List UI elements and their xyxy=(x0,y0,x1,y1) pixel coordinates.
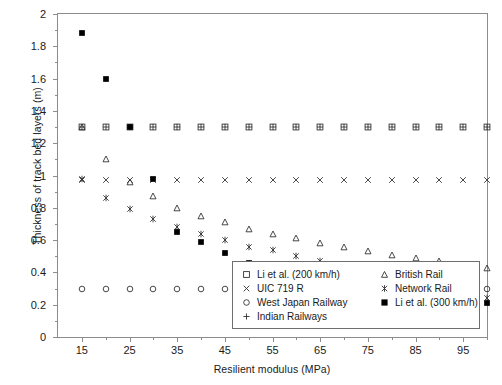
data-point xyxy=(78,285,85,292)
data-point xyxy=(293,177,300,184)
y-axis-tick-label: 1.4 xyxy=(31,105,46,117)
legend-item: Li et al. (300 km/h) xyxy=(379,295,483,309)
data-point xyxy=(484,264,491,271)
data-point xyxy=(388,124,395,131)
x-axis-tick-label: 15 xyxy=(76,344,88,356)
x-axis-tick xyxy=(82,337,83,342)
data-point xyxy=(174,177,181,184)
data-point xyxy=(269,124,276,131)
data-point xyxy=(269,246,276,253)
x-axis-tick-label: 25 xyxy=(123,344,135,356)
data-point xyxy=(341,124,348,131)
legend-item-label: Li et al. (300 km/h) xyxy=(395,297,478,308)
legend-item: British Rail xyxy=(379,267,483,281)
x-axis-label: Resilient modulus (MPa) xyxy=(57,363,487,375)
data-point xyxy=(126,124,133,131)
data-point xyxy=(317,240,324,247)
chart-figure: Thickness of track bed layers (m) 00.20.… xyxy=(0,0,502,385)
x-axis-minor-tick xyxy=(487,337,488,340)
data-point xyxy=(484,124,491,131)
legend-item: West Japan Railway xyxy=(241,295,373,309)
y-axis-tick-label: 0.2 xyxy=(31,299,46,311)
data-point xyxy=(341,243,348,250)
x-axis-minor-tick xyxy=(153,337,154,340)
data-point xyxy=(484,177,491,184)
data-point xyxy=(221,285,228,292)
legend-column-left: Li et al. (200 km/h)UIC 719 RWest Japan … xyxy=(241,267,373,323)
data-point xyxy=(412,177,419,184)
legend-item-label: British Rail xyxy=(395,269,443,280)
cross-x-icon xyxy=(241,283,252,294)
y-axis-tick: 0 xyxy=(53,337,58,338)
data-point xyxy=(198,230,205,237)
data-point xyxy=(412,124,419,131)
legend-item: UIC 719 R xyxy=(241,281,373,295)
open-square-icon xyxy=(241,269,252,280)
x-axis-minor-tick xyxy=(392,337,393,340)
data-point xyxy=(269,230,276,237)
x-axis-tick xyxy=(416,337,417,342)
data-point xyxy=(198,285,205,292)
x-axis-tick-label: 35 xyxy=(171,344,183,356)
legend-item: Network Rail xyxy=(379,281,483,295)
data-point xyxy=(78,175,85,182)
data-point xyxy=(245,124,252,131)
data-point xyxy=(364,248,371,255)
data-point xyxy=(221,177,228,184)
x-axis-tick xyxy=(273,337,274,342)
data-point xyxy=(436,124,443,131)
data-point xyxy=(126,206,133,213)
data-point xyxy=(174,285,181,292)
data-point xyxy=(150,175,157,182)
x-axis-minor-tick xyxy=(296,337,297,340)
data-point xyxy=(436,177,443,184)
x-axis-tick xyxy=(130,337,131,342)
y-axis-tick-label: 1.8 xyxy=(31,40,46,52)
x-axis-tick-label: 75 xyxy=(362,344,374,356)
x-axis-minor-tick xyxy=(344,337,345,340)
y-axis-tick-label: 0.6 xyxy=(31,234,46,246)
data-point xyxy=(221,124,228,131)
legend-item: Indian Railways xyxy=(241,309,373,323)
x-axis-minor-tick xyxy=(201,337,202,340)
data-point xyxy=(484,300,491,307)
data-point xyxy=(198,212,205,219)
chart-legend: Li et al. (200 km/h)UIC 719 RWest Japan … xyxy=(232,261,480,329)
x-axis-tick-label: 95 xyxy=(457,344,469,356)
open-triangle-icon xyxy=(379,269,390,280)
data-point xyxy=(150,124,157,131)
data-point xyxy=(460,124,467,131)
data-point xyxy=(460,177,467,184)
data-point xyxy=(198,177,205,184)
data-point xyxy=(364,124,371,131)
data-point xyxy=(245,225,252,232)
data-point xyxy=(388,177,395,184)
x-axis-tick-label: 65 xyxy=(314,344,326,356)
data-point xyxy=(102,285,109,292)
data-point xyxy=(484,285,491,292)
data-point xyxy=(245,243,252,250)
data-point xyxy=(150,285,157,292)
y-axis-tick-label: 2 xyxy=(40,8,46,20)
y-axis-tick-label: 0.8 xyxy=(31,202,46,214)
data-point xyxy=(364,177,371,184)
data-point xyxy=(102,156,109,163)
star-asterisk-icon xyxy=(379,283,390,294)
data-point xyxy=(221,219,228,226)
legend-item-label: Network Rail xyxy=(395,283,452,294)
x-axis-tick xyxy=(177,337,178,342)
data-point xyxy=(150,216,157,223)
data-point xyxy=(317,177,324,184)
data-point xyxy=(317,124,324,131)
data-point xyxy=(388,251,395,258)
data-point xyxy=(341,177,348,184)
x-axis-tick xyxy=(368,337,369,342)
data-point xyxy=(78,124,85,131)
data-point xyxy=(102,124,109,131)
data-point xyxy=(269,177,276,184)
y-axis-tick-label: 0 xyxy=(40,331,46,343)
data-point xyxy=(102,75,109,82)
data-point xyxy=(102,195,109,202)
data-point xyxy=(102,177,109,184)
legend-item: Li et al. (200 km/h) xyxy=(241,267,373,281)
